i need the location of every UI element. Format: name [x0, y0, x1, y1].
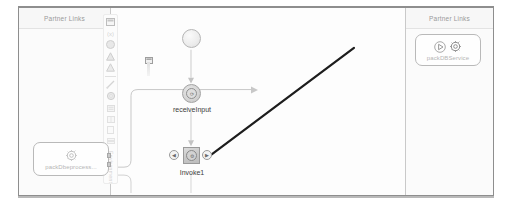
lane-header-right: Partner Links: [406, 8, 493, 29]
doc-icon[interactable]: [105, 126, 116, 135]
invoke-handle-right[interactable]: ▶: [202, 150, 212, 160]
gear-icon: [449, 40, 462, 53]
receive-input-label: receiveInput: [151, 106, 233, 113]
partner-link-right-label: packDBService: [427, 55, 469, 61]
connector-icon[interactable]: [105, 80, 116, 89]
invoke-label: Invoke1: [160, 169, 224, 176]
partner-link-left-port-lower[interactable]: [107, 162, 111, 167]
circle-icon-glyph: [106, 40, 115, 49]
gear-icon[interactable]: [105, 91, 116, 101]
partner-link-right-box[interactable]: packDBService: [415, 34, 481, 66]
list-icon-glyph: [107, 105, 115, 112]
note-icon[interactable]: [105, 18, 116, 27]
triangle-2-icon-glyph: [106, 63, 115, 72]
circle-icon[interactable]: [105, 40, 116, 49]
invoke-node[interactable]: ⚙: [183, 147, 200, 164]
invoke-handle-left[interactable]: ◀: [169, 150, 179, 160]
partner-link-left-port-upper[interactable]: [107, 153, 111, 158]
partner-link-left-box[interactable]: packDbeprocess...: [33, 142, 109, 176]
list-icon[interactable]: [105, 104, 116, 113]
receive-input-node[interactable]: ⟳: [182, 84, 201, 103]
triangle-icon[interactable]: [105, 52, 116, 61]
triangle-icon-glyph: [106, 52, 115, 61]
doc-icon-glyph: [107, 126, 114, 134]
connector-invoke-to-packdbservice: [208, 48, 354, 157]
lane-title-left: Partner Links: [44, 15, 85, 22]
grid-icon-glyph: [107, 116, 115, 123]
gear-icon: [65, 149, 78, 162]
screenshot-root: Partner Links Partner Links: [0, 0, 512, 208]
arrowhead-receive-invoke: [188, 140, 194, 146]
connector-icon-glyph: [106, 80, 115, 89]
receive-glyph: ⟳: [186, 88, 197, 99]
variable-icon[interactable]: (x): [105, 29, 116, 38]
invoke-glyph: ⚙: [186, 150, 197, 161]
arrowhead-receive: [251, 87, 258, 94]
grid-icon[interactable]: [105, 115, 116, 124]
note-icon-glyph: [106, 18, 115, 26]
start-event-node[interactable]: [182, 29, 201, 48]
play-icon[interactable]: [434, 41, 446, 53]
frame-shadow: [18, 196, 494, 198]
partner-link-left-label: packDbeprocess...: [45, 164, 96, 170]
palette-separator: [105, 76, 116, 77]
lane-title-right: Partner Links: [429, 15, 470, 22]
triangle-2-icon[interactable]: [105, 63, 116, 72]
partner-link-right-icons: [434, 40, 462, 54]
gear-icon-glyph: [106, 91, 116, 101]
lane-header-left: Partner Links: [19, 8, 110, 29]
arrowhead-start-receive: [188, 78, 194, 84]
bpel-editor-frame: Partner Links Partner Links: [18, 6, 494, 196]
mini-connector-stub: [147, 62, 150, 76]
partner-link-left-icons: [65, 149, 78, 163]
